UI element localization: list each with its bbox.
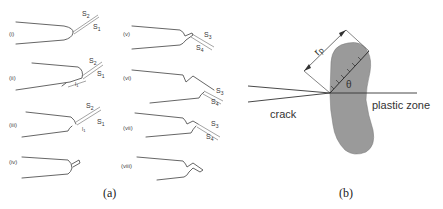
crack-tip-extension [72,160,80,167]
plastic-zone-label: plastic zone [372,99,430,111]
step-vi: (vi) S3 S4 [123,70,224,107]
step-iii: (iii) S2 S1 l1 [9,102,105,137]
crack-upper-face [248,86,330,93]
step-vii: (vii) S3 S4 [123,113,220,142]
crack-label: crack [270,108,297,120]
plastic-zone-shape [330,42,374,154]
crack-lower-face [248,93,330,102]
plane-label: S4 [211,98,219,107]
step-label: (ii) [9,75,16,81]
crack-outline [137,157,203,180]
crack-outline [26,112,76,124]
radius-label: rp [311,43,326,58]
plane-label: S3 [216,87,224,96]
step-label: (viii) [121,163,132,169]
step-iv: (iv) [9,157,80,178]
step-i: (i) S2 S1 [9,10,101,44]
plane-label: S4 [196,44,204,53]
plane-label: S2 [82,10,90,19]
crack-outline [146,126,196,137]
plane-label: S4 [206,133,214,142]
crack-outline [135,113,198,124]
plane-label: S2 [89,57,97,66]
step-label: (vii) [123,125,133,131]
plane-label: S1 [93,23,101,32]
crack-outline [16,22,73,44]
extension-line [304,71,330,93]
plastic-zone-diagram: rp θ crack plastic zone [248,30,430,154]
caption-a: (a) [103,186,116,200]
caption-b: (b) [339,186,353,200]
step-viii: (viii) [121,157,203,180]
plane-label: S3 [204,31,212,40]
crack-outline [132,26,193,49]
angle-label: θ [346,79,352,90]
crack-outline [150,92,204,103]
step-label: (iii) [9,122,17,128]
step-label: (vi) [123,75,131,81]
plane-label: S1 [97,70,105,79]
plane-label: S3 [211,120,219,129]
plane-label: S1 [97,118,105,127]
crack-outline [16,63,83,90]
step-v: (v) S3 S4 [123,26,214,53]
step-label: (v) [123,31,130,37]
dimension-label: l1 [82,126,86,133]
step-label: (i) [9,31,14,37]
step-label: (iv) [9,159,17,165]
plane-label: S2 [86,102,94,111]
crack-outline [22,126,72,137]
figure-canvas: (i) S2 S1 (ii) S2 S1 l1 (iii) S2 S1 l1 (… [0,0,443,209]
crack-outline [22,157,72,178]
crack-outline [132,70,214,90]
dimension-label: l1 [75,81,79,88]
step-ii: (ii) S2 S1 l1 [9,57,105,90]
